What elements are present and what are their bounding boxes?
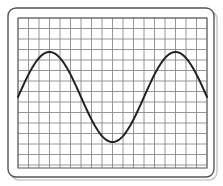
figure-root: Sine wave plotted on graph paper — [0, 0, 223, 186]
graph-paper-figure — [0, 0, 223, 186]
